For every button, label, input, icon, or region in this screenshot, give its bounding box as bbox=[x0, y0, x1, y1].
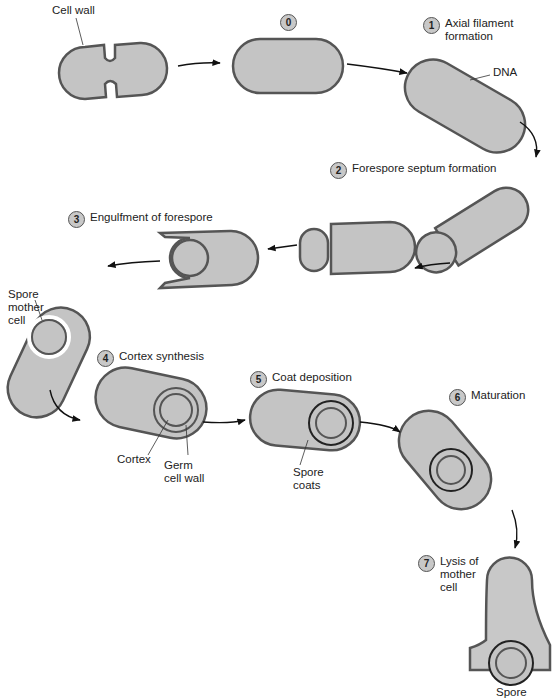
mother-cell-septum bbox=[331, 222, 415, 274]
step-badge: 1 bbox=[423, 17, 440, 34]
dividing-cell bbox=[59, 43, 167, 99]
step-3: 3Engulfment of forespore bbox=[68, 211, 213, 228]
step-label: Engulfment of forespore bbox=[90, 211, 213, 224]
step-label: Maturation bbox=[471, 389, 525, 402]
cell-stage-0 bbox=[233, 39, 343, 93]
step-badge: 4 bbox=[97, 350, 114, 367]
label-spore-mother-cell: Spore mother cell bbox=[8, 288, 44, 327]
step-label: Coat deposition bbox=[272, 371, 352, 384]
step-0: 0 bbox=[280, 14, 297, 31]
label-cell-wall: Cell wall bbox=[52, 4, 95, 17]
label-spore: Spore bbox=[496, 686, 527, 699]
step-6: 6Maturation bbox=[449, 389, 525, 406]
step-5: 5Coat deposition bbox=[250, 371, 352, 388]
label-spore-coats: Spore coats bbox=[293, 466, 324, 492]
label-dna: DNA bbox=[493, 66, 517, 79]
step-label: Axial filament formation bbox=[445, 17, 513, 43]
forespore-small bbox=[300, 229, 328, 271]
step-1: 1Axial filament formation bbox=[423, 17, 513, 43]
sporulation-diagram bbox=[0, 0, 558, 699]
step-label: Forespore septum formation bbox=[352, 162, 496, 175]
label-cortex: Cortex bbox=[117, 453, 151, 466]
step-label: Lysis of mother cell bbox=[440, 555, 479, 594]
label-germ-cell-wall: Germ cell wall bbox=[164, 459, 204, 485]
step-badge: 3 bbox=[68, 211, 85, 228]
step-badge: 2 bbox=[330, 162, 347, 179]
step-label: Cortex synthesis bbox=[119, 350, 204, 363]
step-4: 4Cortex synthesis bbox=[97, 350, 204, 367]
step-badge: 5 bbox=[250, 371, 267, 388]
step-badge: 6 bbox=[449, 389, 466, 406]
step-2: 2Forespore septum formation bbox=[330, 162, 496, 179]
step-badge: 0 bbox=[280, 14, 297, 31]
step-badge: 7 bbox=[418, 555, 435, 572]
step-7: 7Lysis of mother cell bbox=[418, 555, 479, 594]
cell-stage-2 bbox=[408, 179, 536, 282]
